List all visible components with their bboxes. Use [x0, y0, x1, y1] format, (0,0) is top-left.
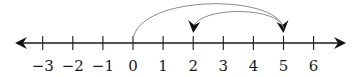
tick-label: 1 [158, 57, 168, 75]
jump-arc [133, 4, 284, 39]
tick-label: 6 [309, 57, 319, 75]
jumps [133, 4, 289, 39]
jump-arrowhead-icon [188, 20, 200, 33]
tick-label: 4 [249, 57, 259, 75]
tick-label: −1 [92, 57, 114, 75]
jump-arrowhead-icon [277, 20, 289, 33]
axis [15, 37, 346, 49]
tick-label: 2 [188, 57, 198, 75]
tick-label: 5 [279, 57, 289, 75]
tick-label: −2 [62, 57, 84, 75]
ticks: −3−2−10123456 [32, 36, 319, 75]
number-line-diagram: −3−2−10123456 [0, 0, 360, 77]
tick-label: 0 [128, 57, 138, 75]
tick-label: 3 [219, 57, 229, 75]
tick-label: −3 [32, 57, 54, 75]
